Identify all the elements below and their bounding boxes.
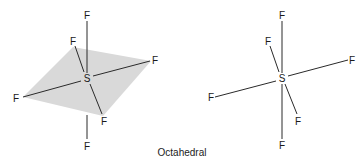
atom-ligand-bottom: F (279, 140, 285, 151)
atom-ligand-upper-left: F (265, 36, 271, 47)
atom-central: S (84, 73, 91, 84)
bond-upper-left (270, 46, 279, 72)
atom-ligand-bottom: F (84, 141, 90, 152)
atom-ligand-lower: F (295, 116, 301, 127)
atom-ligand-top: F (84, 10, 90, 21)
atom-ligand-right: F (152, 55, 158, 66)
atom-ligand-lower: F (101, 116, 107, 127)
bond-right (288, 60, 348, 76)
atom-central: S (279, 73, 286, 84)
atom-ligand-left: F (13, 93, 19, 104)
bond-left (215, 81, 276, 97)
atom-ligand-right: F (349, 55, 355, 66)
atom-ligand-top: F (279, 10, 285, 21)
octahedral-diagram: S F F F F F F S F F F F F F Octahedral (0, 0, 364, 166)
molecule-left: S F F F F F F (13, 10, 158, 152)
atom-ligand-left: F (208, 92, 214, 103)
atom-ligand-upper-left: F (70, 36, 76, 47)
diagram-caption: Octahedral (158, 147, 207, 158)
molecule-right: S F F F F F F (208, 10, 355, 151)
bond-lower (285, 84, 297, 114)
